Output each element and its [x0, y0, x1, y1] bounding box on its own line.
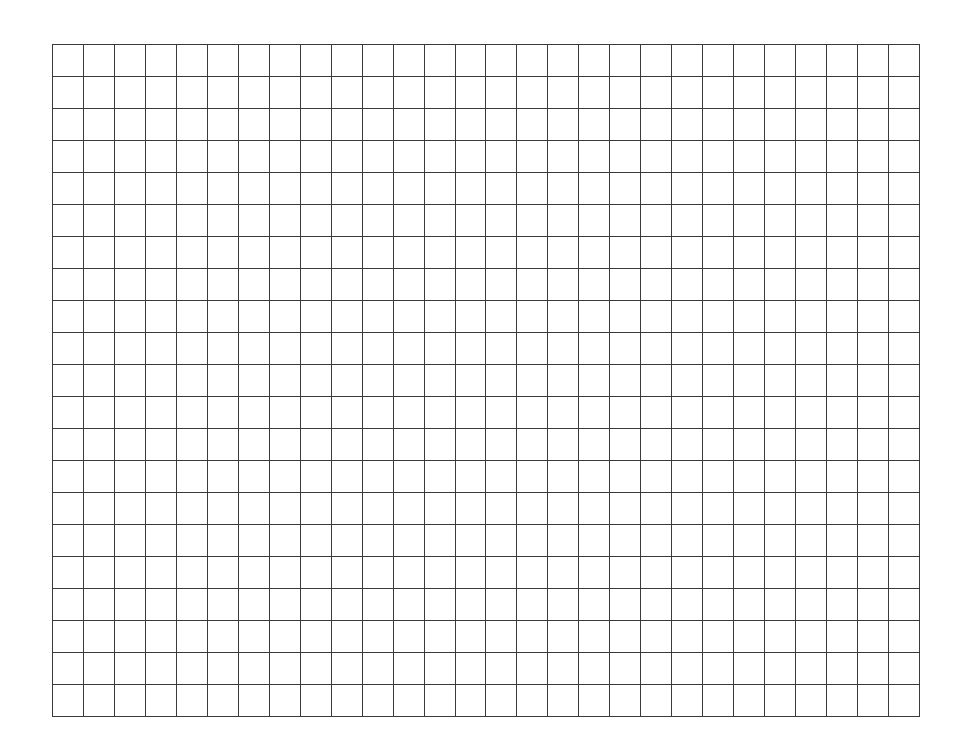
grid-cell — [733, 76, 764, 108]
grid-cell — [826, 268, 857, 300]
grid-cell — [578, 236, 609, 268]
grid-cell — [795, 364, 826, 396]
grid-cell — [269, 204, 300, 236]
grid-cell — [640, 76, 671, 108]
grid-cell — [455, 652, 486, 684]
grid-cell — [764, 396, 795, 428]
grid-cell — [83, 204, 114, 236]
grid-cell — [145, 172, 176, 204]
grid-cell — [331, 588, 362, 620]
grid-cell — [702, 332, 733, 364]
grid-cell — [857, 300, 888, 332]
grid-cell — [578, 76, 609, 108]
grid-cell — [362, 556, 393, 588]
grid-cell — [269, 236, 300, 268]
grid-cell — [207, 300, 238, 332]
grid-cell — [671, 524, 702, 556]
grid-cell — [857, 332, 888, 364]
grid-cell — [733, 300, 764, 332]
grid-cell — [640, 44, 671, 76]
grid-cell — [485, 76, 516, 108]
grid-cell — [424, 236, 455, 268]
grid-cell — [640, 268, 671, 300]
grid-cell — [455, 620, 486, 652]
grid-cell — [547, 556, 578, 588]
grid-cell — [578, 332, 609, 364]
grid-cell — [83, 332, 114, 364]
grid-cell — [52, 268, 83, 300]
grid-cell — [702, 300, 733, 332]
grid-cell — [455, 364, 486, 396]
grid-cell — [362, 268, 393, 300]
grid-cell — [455, 684, 486, 716]
grid-cell — [52, 332, 83, 364]
grid-cell — [300, 172, 331, 204]
grid-cell — [671, 588, 702, 620]
grid-cell — [485, 44, 516, 76]
grid-cell — [331, 44, 362, 76]
grid-cell — [764, 428, 795, 460]
grid-cell — [362, 300, 393, 332]
grid-cell — [300, 332, 331, 364]
grid-cell — [424, 76, 455, 108]
grid-cell — [733, 492, 764, 524]
grid-cell — [176, 76, 207, 108]
grid-cell — [393, 300, 424, 332]
grid-cell — [826, 652, 857, 684]
grid-cell — [145, 332, 176, 364]
grid-cell — [609, 236, 640, 268]
grid-cell — [362, 460, 393, 492]
grid-cell — [393, 268, 424, 300]
grid-cell — [207, 172, 238, 204]
grid-cell — [207, 44, 238, 76]
grid-cell — [424, 396, 455, 428]
grid-cell — [362, 428, 393, 460]
grid-cell — [764, 140, 795, 172]
grid-cell — [269, 300, 300, 332]
grid-cell — [764, 236, 795, 268]
grid-cell — [331, 332, 362, 364]
grid-cell — [207, 204, 238, 236]
grid-cell — [114, 428, 145, 460]
grid-cell — [547, 524, 578, 556]
grid-cell — [733, 588, 764, 620]
grid-cell — [455, 460, 486, 492]
grid-cell — [485, 108, 516, 140]
grid-cell — [826, 332, 857, 364]
grid-cell — [640, 236, 671, 268]
grid-cell — [114, 396, 145, 428]
grid-cell — [516, 172, 547, 204]
grid-cell — [114, 172, 145, 204]
grid-cell — [609, 300, 640, 332]
grid-cell — [826, 620, 857, 652]
grid-cell — [424, 172, 455, 204]
grid-cell — [671, 396, 702, 428]
grid-cell — [331, 76, 362, 108]
grid-cell — [300, 236, 331, 268]
grid-cell — [764, 620, 795, 652]
grid-cell — [888, 108, 919, 140]
grid-cell — [764, 460, 795, 492]
grid-cell — [145, 204, 176, 236]
grid-cell — [114, 268, 145, 300]
grid-cell — [516, 492, 547, 524]
grid-cell — [238, 204, 269, 236]
grid-cell — [764, 524, 795, 556]
grid-cell — [207, 652, 238, 684]
grid-cell — [547, 332, 578, 364]
grid-cell — [764, 108, 795, 140]
grid-cell — [424, 556, 455, 588]
grid-cell — [702, 620, 733, 652]
grid-cell — [300, 588, 331, 620]
grid-cell — [857, 172, 888, 204]
grid-cell — [114, 236, 145, 268]
grid-cell — [826, 108, 857, 140]
grid-cell — [857, 364, 888, 396]
grid-cell — [455, 140, 486, 172]
grid-cell — [114, 460, 145, 492]
grid-cell — [207, 524, 238, 556]
grid-cell — [640, 364, 671, 396]
grid-cell — [393, 172, 424, 204]
grid-cell — [393, 140, 424, 172]
grid-cell — [207, 556, 238, 588]
